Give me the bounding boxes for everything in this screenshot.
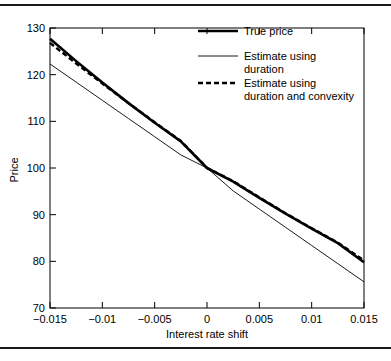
y-tick-label: 100 <box>27 162 45 174</box>
legend-label: duration and convexity <box>244 90 355 102</box>
y-axis-ticks <box>50 28 56 308</box>
y-axis-title: Price <box>8 157 20 182</box>
legend-label: Estimate using <box>244 77 316 89</box>
chart-legend: True priceEstimate usingdurationEstimate… <box>198 25 355 102</box>
y-tick-label: 80 <box>33 255 45 267</box>
data-series-layer <box>50 39 364 282</box>
y-tick-label: 70 <box>33 302 45 314</box>
y-tick-label: 90 <box>33 209 45 221</box>
x-tick-label: 0 <box>204 313 210 325</box>
x-axis-title: Interest rate shift <box>166 328 248 340</box>
y-tick-label: 120 <box>27 69 45 81</box>
x-axis-tick-labels: −0.015−0.01−0.00500.0050.010.015 <box>33 313 378 325</box>
legend-label: duration <box>244 63 284 75</box>
x-tick-label: −0.015 <box>33 313 67 325</box>
x-tick-label: −0.01 <box>88 313 116 325</box>
y-tick-label: 130 <box>27 22 45 34</box>
legend-label: True price <box>244 25 293 37</box>
series-line <box>50 43 364 260</box>
x-tick-label: −0.005 <box>138 313 172 325</box>
y-tick-label: 110 <box>27 115 45 127</box>
x-tick-label: 0.01 <box>301 313 322 325</box>
legend-label: Estimate using <box>244 50 316 62</box>
price-vs-interest-rate-shift-chart: −0.015−0.01−0.00500.0050.010.015 7080901… <box>0 0 391 361</box>
x-tick-label: 0.015 <box>350 313 378 325</box>
figure-container: −0.015−0.01−0.00500.0050.010.015 7080901… <box>0 0 391 361</box>
series-line <box>50 39 364 263</box>
x-tick-label: 0.005 <box>246 313 274 325</box>
y-axis-tick-labels: 708090100110120130 <box>27 22 45 314</box>
